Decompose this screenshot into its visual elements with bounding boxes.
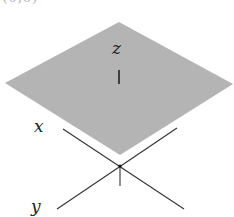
diagram-svg	[0, 0, 234, 217]
origin-point	[118, 164, 121, 167]
x-axis-label: x	[34, 118, 44, 135]
diagram-canvas: (0,0) z x y	[0, 0, 234, 217]
z-axis-label: z	[112, 40, 121, 57]
y-axis-label: y	[31, 198, 41, 215]
